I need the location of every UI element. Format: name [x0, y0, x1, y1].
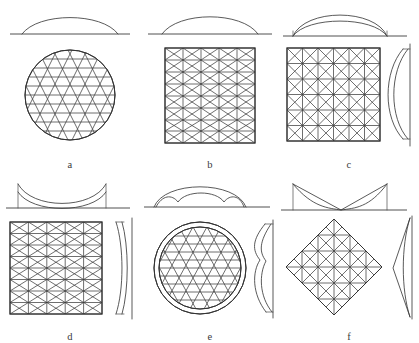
panel-f-plan	[286, 219, 382, 315]
panel-a-drawing	[0, 0, 140, 152]
panel-a: a	[0, 0, 140, 171]
panel-a-elevation	[10, 18, 130, 35]
panel-e-elevation	[144, 187, 270, 207]
panel-f-side-view	[393, 216, 412, 319]
panel-d-label: d	[0, 331, 140, 342]
figure-root: a	[0, 0, 419, 343]
panel-c-mesh	[287, 48, 380, 141]
panel-e: e	[140, 172, 280, 343]
panel-b-plan	[165, 48, 255, 143]
panel-b-drawing	[140, 0, 280, 152]
panel-b-label: b	[140, 159, 280, 170]
panel-f-label: f	[279, 331, 419, 342]
panel-d-elevation	[6, 184, 130, 209]
panel-f-elevation	[281, 184, 407, 210]
panel-c-label: c	[279, 159, 419, 170]
panel-d-plan	[10, 222, 102, 314]
panel-c-elevation	[283, 15, 407, 36]
panel-f: f	[279, 172, 419, 343]
panel-d: d	[0, 172, 140, 343]
panel-d-side-view	[116, 218, 132, 319]
panel-b: b	[140, 0, 280, 171]
panel-d-drawing	[0, 172, 140, 324]
panel-f-drawing	[279, 172, 419, 324]
panel-c-plan	[287, 48, 380, 141]
panel-a-label: a	[0, 159, 140, 170]
panel-c: c	[279, 0, 419, 171]
panel-b-elevation	[148, 17, 272, 34]
panel-e-label: e	[140, 331, 280, 342]
panel-c-side-view	[388, 44, 410, 146]
panel-a-plan	[0, 40, 140, 140]
panel-e-drawing	[140, 172, 280, 324]
panel-c-drawing	[279, 0, 419, 152]
panel-f-mesh	[286, 219, 382, 315]
panel-e-side-view	[255, 220, 273, 318]
